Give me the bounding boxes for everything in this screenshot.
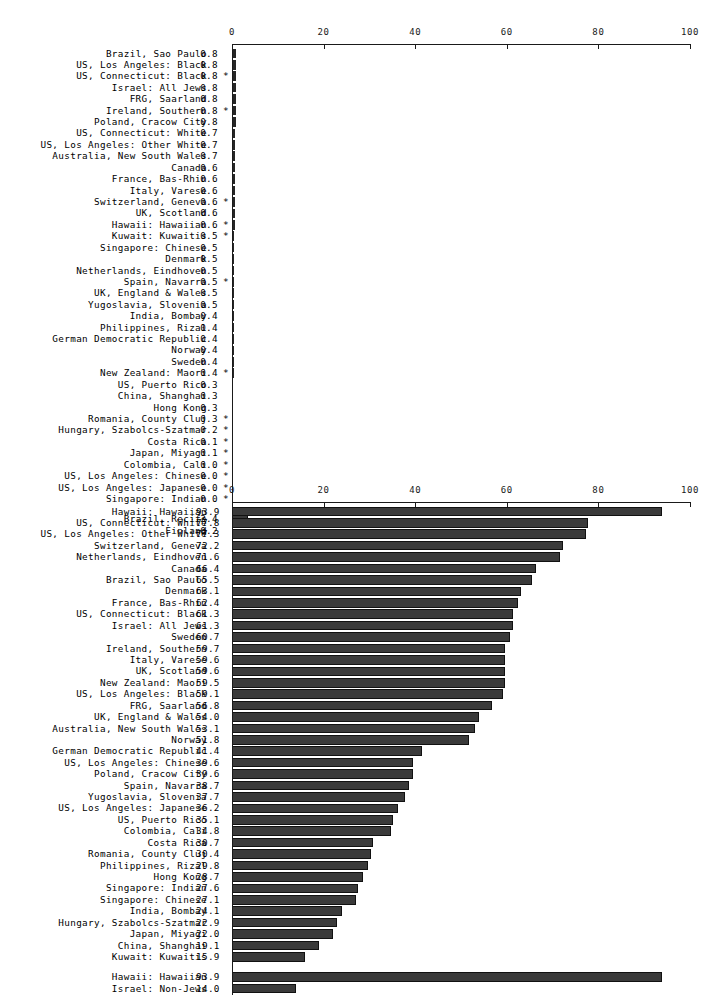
bar-row: Brazil, Sao Paulo0.8 (0, 48, 714, 59)
bar-track (232, 425, 690, 436)
bar-row: UK, England & Wales54.0 (0, 712, 714, 723)
bar-row: France, Bas-Rhin62.4 (0, 597, 714, 608)
bar-row-value: 0.7 (196, 151, 218, 161)
zero-axis-spine (232, 506, 233, 995)
bar-row-label: Kuwait: Kuwaitis (112, 231, 207, 241)
bar-row-label: Poland, Cracow City (94, 117, 207, 127)
bar-track (232, 219, 690, 230)
bar-row-label: US, Los Angeles: Chinese (64, 471, 207, 481)
bar-row: US, Los Angeles: Black0.8 (0, 59, 714, 70)
significance-star-icon: * (223, 231, 229, 241)
bar-track (232, 734, 690, 745)
bar-row: Italy, Varese59.6 (0, 654, 714, 665)
bar-track (232, 677, 690, 688)
bar (232, 575, 532, 585)
bar-row-value: 0.0 (196, 471, 218, 481)
bar-row-label: New Zealand: Maori (100, 678, 207, 688)
bar-row: Kuwait: Kuwaitis0.5* (0, 231, 714, 242)
bar-row-value: 0.3 (196, 414, 218, 424)
bar (232, 826, 391, 836)
bar-row: FRG, Saarland56.8 (0, 700, 714, 711)
bar-track (232, 242, 690, 253)
bar-row: FRG, Saarland0.8 (0, 94, 714, 105)
bar (232, 667, 505, 677)
significance-star-icon: * (223, 197, 229, 207)
bar-row: Brazil, Sao Paulo65.5 (0, 575, 714, 586)
bar-track (232, 769, 690, 780)
bar-row: Ireland, Southern59.7 (0, 643, 714, 654)
bar-track (232, 94, 690, 105)
bar-track (232, 208, 690, 219)
bar-row-value: 63.1 (196, 586, 218, 596)
bar-row: US, Los Angeles: Other White0.7 (0, 139, 714, 150)
bar-track (232, 368, 690, 379)
bar-row: Singapore: Chinese27.1 (0, 894, 714, 905)
bar-row-value: 27.1 (196, 895, 218, 905)
bar-row-value: 0.7 (196, 140, 218, 150)
bar-row: Spain, Navarra38.7 (0, 780, 714, 791)
bar-track (232, 814, 690, 825)
bar-row-label: US, Los Angeles: Japanese (58, 803, 207, 813)
bar-track (232, 288, 690, 299)
bar-row: Israel: All Jews61.3 (0, 620, 714, 631)
bar-row-value: 41.4 (196, 746, 218, 756)
bar (232, 984, 296, 994)
bar-row-label: Poland, Cracow City (94, 769, 207, 779)
bar-track (232, 345, 690, 356)
bar-track (232, 654, 690, 665)
bar-track (232, 757, 690, 768)
bar (232, 518, 588, 528)
bar-track (232, 929, 690, 940)
bar-row-value: 0.4 (196, 345, 218, 355)
bar-track (232, 128, 690, 139)
bar-track (232, 391, 690, 402)
bar-row: Sweden0.4 (0, 356, 714, 367)
bar-row: Israel: All Jews0.8 (0, 82, 714, 93)
bar-row: Spain, Navarra0.5* (0, 276, 714, 287)
bar-track (232, 837, 690, 848)
bar-row: Norway51.8 (0, 734, 714, 745)
bar-track (232, 563, 690, 574)
bar-row-label: UK, England & Wales (94, 712, 207, 722)
bar (232, 621, 513, 631)
bar-row: Denmark0.5 (0, 254, 714, 265)
bar-track (232, 951, 690, 962)
bar-rows: Brazil, Sao Paulo0.8US, Los Angeles: Bla… (0, 48, 714, 537)
bar (232, 724, 475, 734)
bar-track (232, 586, 690, 597)
bar (232, 906, 342, 916)
bar-row: China, Shanghai0.3 (0, 391, 714, 402)
bar (232, 781, 409, 791)
bar-row: Hawaii: Hawaiian0.6* (0, 219, 714, 230)
bar-row-value: 0.5 (196, 277, 218, 287)
bar-track (232, 185, 690, 196)
bar-row: Romania, County Cluj30.4 (0, 849, 714, 860)
bar-row: Hawaii: Hawaiian93.9 (0, 972, 714, 983)
bar-row: Hungary, Szabolcs-Szatmar22.9 (0, 917, 714, 928)
bar-track (232, 643, 690, 654)
bar-track (232, 529, 690, 540)
bar-row-value: 0.7 (196, 128, 218, 138)
bar-row: US, Connecticut: Black0.8* (0, 71, 714, 82)
bar-row: Philippines, Rizal0.4 (0, 322, 714, 333)
bar-row: Canada0.6 (0, 162, 714, 173)
bar-track (232, 780, 690, 791)
bar-row-value: 36.2 (196, 803, 218, 813)
bar (232, 972, 662, 982)
bar-track (232, 117, 690, 128)
bar-row-value: 51.8 (196, 735, 218, 745)
significance-star-icon: * (223, 106, 229, 116)
bar-row: US, Puerto Rico35.1 (0, 814, 714, 825)
bar-row-value: 0.5 (196, 266, 218, 276)
bar-track (232, 506, 690, 517)
bar-row: Japan, Miyagi0.1* (0, 448, 714, 459)
zero-axis-spine (232, 48, 233, 537)
bar-row-label: German Democratic Republic (52, 746, 207, 756)
bar-row-label: US, Connecticut: Black (76, 609, 207, 619)
bar-row-value: 0.4 (196, 334, 218, 344)
bar-row-label: China, Shanghai (118, 941, 207, 951)
bar-row: Australia, New South Wales0.7 (0, 151, 714, 162)
bar-row-value: 0.2 (196, 425, 218, 435)
bar (232, 587, 521, 597)
bar-row-value: 0.5 (196, 254, 218, 264)
